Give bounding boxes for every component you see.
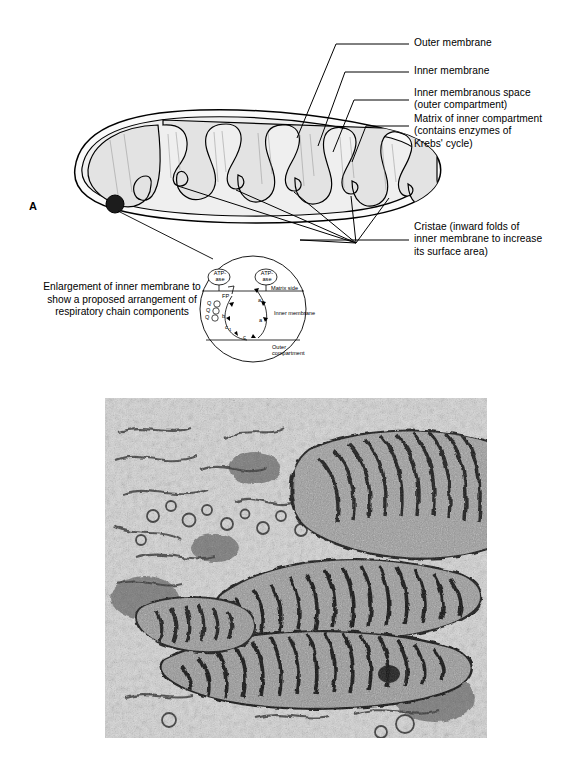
- micrograph-image: [105, 398, 487, 738]
- panel-b-micrograph: [105, 398, 487, 738]
- dense-granule-marker: [106, 195, 124, 213]
- micrograph-grain-overlay: [105, 398, 487, 738]
- inset-label-a: a: [259, 317, 262, 324]
- callout-inner-membranous-space: Inner membranous space (outer compartmen…: [414, 87, 531, 112]
- inset-label-atpase-left: ATP- ase: [210, 271, 230, 283]
- inset-label-outer-compartment: Outer compartment: [272, 344, 305, 357]
- inset-label-atpase-right: ATP- ase: [257, 271, 277, 283]
- inset-label-a3: a: [258, 297, 261, 304]
- inset-label-c1: c: [225, 324, 228, 331]
- figure-mitochondrion: A Outer membrane Inner membrane Inner me…: [0, 0, 568, 762]
- panel-a-diagram: [0, 0, 568, 400]
- enlargement-caption: Enlargement of inner membrane to show a …: [36, 281, 208, 319]
- inset-label-a3-subscript: 3: [262, 300, 264, 307]
- callout-matrix: Matrix of inner compartment (contains en…: [414, 113, 542, 150]
- inset-label-q-3: Q: [205, 314, 209, 321]
- inset-label-matrix-side: Matrix side: [271, 285, 298, 292]
- inset-label-inner-membrane: Inner membrane: [274, 310, 315, 317]
- callout-inner-membrane: Inner membrane: [414, 65, 489, 77]
- inset-label-fp: FP: [222, 293, 229, 300]
- callout-cristae: Cristae (inward folds of inner membrane …: [414, 221, 542, 258]
- inset-label-b: b: [222, 313, 225, 320]
- inset-label-c1-subscript: 1: [229, 327, 231, 334]
- inset-label-q-1: Q: [207, 300, 211, 307]
- panel-letter-a: A: [29, 200, 37, 212]
- inset-label-c: c: [243, 334, 246, 341]
- callout-outer-membrane: Outer membrane: [414, 37, 492, 49]
- inset-label-q-2: Q: [206, 307, 210, 314]
